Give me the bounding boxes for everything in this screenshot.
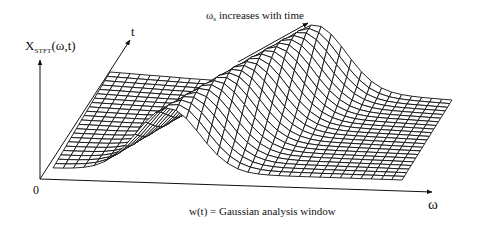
label-suffix: (ω,t) [52, 38, 76, 53]
origin-label: 0 [33, 183, 39, 198]
gaussian-ridge-mesh [53, 25, 452, 180]
label-main: X [25, 38, 34, 53]
annotation-subscript: s [213, 15, 216, 23]
label-subscript: STFT [34, 47, 51, 55]
stft-surface-figure [0, 0, 480, 227]
time-axis-label: t [131, 24, 135, 40]
frequency-axis-label: ω [428, 196, 438, 213]
annotation-text: increases with time [216, 9, 304, 21]
frequency-axis [40, 179, 432, 192]
frequency-trend-annotation: ωs increases with time [206, 9, 304, 21]
magnitude-axis-label: XSTFT(ω,t) [25, 38, 76, 54]
window-caption: w(t) = Gaussian analysis window [189, 205, 336, 217]
